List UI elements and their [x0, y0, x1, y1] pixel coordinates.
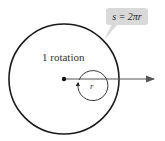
rotation-label: 1 rotation	[42, 51, 85, 63]
formula-label: s = 2πr	[112, 11, 142, 22]
callout-pointer	[104, 24, 118, 40]
circle-diagram: s = 2πr 1 rotation r	[0, 0, 165, 141]
center-point	[62, 77, 66, 81]
radius-label: r	[90, 81, 94, 91]
